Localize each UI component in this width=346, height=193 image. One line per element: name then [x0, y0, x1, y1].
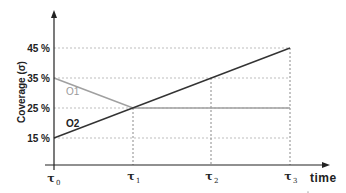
y-tick-45: 45 %	[27, 43, 50, 54]
y-tick-35: 35 %	[27, 73, 50, 84]
x-tick-tau3: τ 3	[284, 170, 297, 185]
stray-dot	[307, 191, 308, 192]
x-tick-tau0: τ 0	[47, 172, 60, 187]
svg-text:τ: τ	[205, 170, 212, 183]
y-tick-25: 25 %	[27, 103, 50, 114]
series-o2-label: O2	[66, 118, 80, 129]
x-tick-tau2: τ 2	[205, 170, 218, 185]
series-o1-label: O1	[66, 86, 80, 97]
svg-text:1: 1	[136, 177, 140, 185]
svg-text:3: 3	[293, 177, 297, 185]
vertical-guides	[133, 48, 290, 165]
svg-text:τ: τ	[284, 170, 291, 183]
x-tick-tau1: τ 1	[127, 170, 140, 185]
y-axis-label: Coverage (σ)	[16, 61, 27, 123]
series-o2-line	[54, 48, 290, 138]
svg-text:0: 0	[56, 179, 60, 187]
x-axis-label: time	[310, 171, 337, 185]
y-tick-15: 15 %	[27, 133, 50, 144]
svg-text:2: 2	[214, 177, 218, 185]
svg-text:τ: τ	[127, 170, 134, 183]
svg-text:τ: τ	[47, 172, 54, 185]
coverage-chart: 45 % 35 % 25 % 15 % Coverage (σ) τ 0 τ 1…	[0, 0, 346, 193]
